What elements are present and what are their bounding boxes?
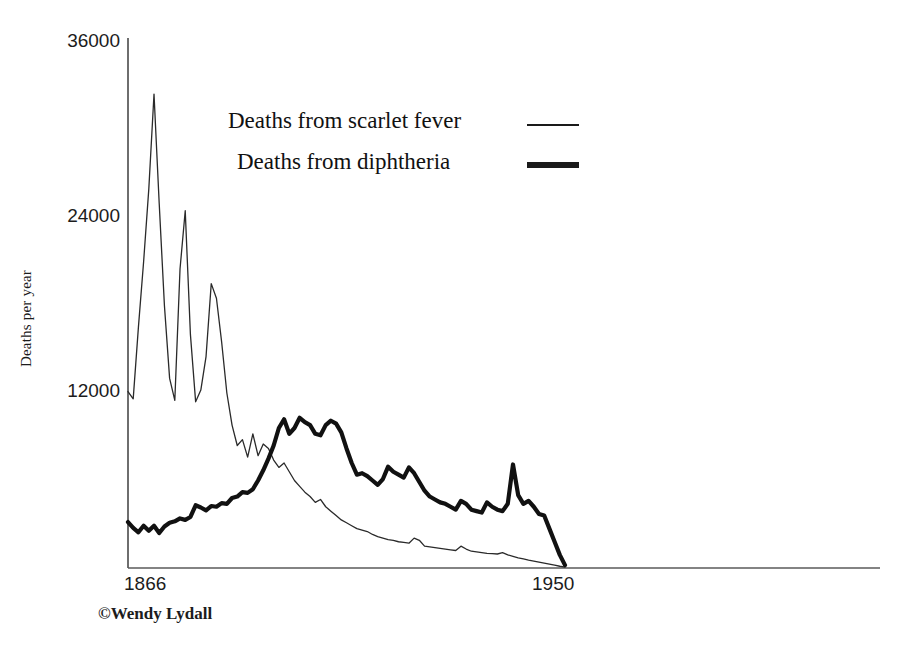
legend-swatch-diphtheria bbox=[527, 162, 579, 168]
legend-label-scarlet-fever: Deaths from scarlet fever bbox=[228, 108, 461, 134]
y-axis-title: Deaths per year bbox=[18, 249, 35, 389]
y-tick-24000-label: 24000 bbox=[67, 205, 120, 227]
legend-swatch-scarlet-fever bbox=[527, 124, 579, 126]
y-tick-12000-label: 12000 bbox=[67, 380, 120, 402]
x-tick-end-label: 1950 bbox=[532, 573, 574, 595]
y-tick-36000: 36000 bbox=[0, 30, 120, 56]
legend-label-diphtheria: Deaths from diphtheria bbox=[237, 149, 450, 175]
series-line-diphtheria bbox=[128, 418, 565, 565]
x-tick-start-label: 1866 bbox=[124, 573, 166, 595]
y-tick-24000: 24000 bbox=[0, 205, 120, 231]
y-tick-12000: 12000 bbox=[0, 380, 120, 406]
copyright-credit: ©Wendy Lydall bbox=[98, 604, 212, 624]
plot-area bbox=[0, 0, 911, 658]
y-tick-36000-label: 36000 bbox=[67, 30, 120, 52]
chart-figure: Deaths per year 36000 24000 12000 1866 1… bbox=[0, 0, 911, 658]
